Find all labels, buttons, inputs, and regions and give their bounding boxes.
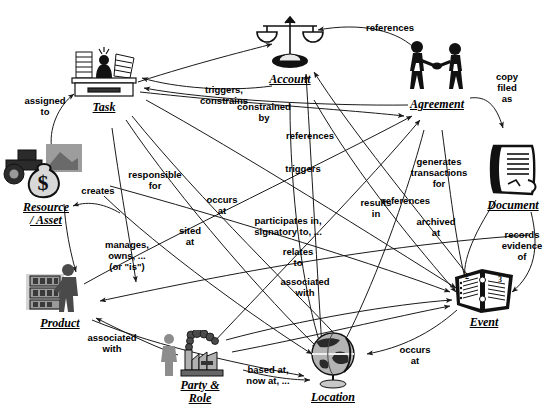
node-product[interactable]: Product: [24, 262, 96, 330]
edge-label-constrained-by: constrained by: [237, 101, 291, 123]
node-label-party-role: Party & Role: [155, 379, 245, 405]
balance-scales-icon: [253, 14, 327, 72]
handshake-figures-icon: [400, 37, 474, 97]
node-task[interactable]: Task: [66, 46, 142, 114]
edge-label-associated-with-2: associated with: [87, 332, 136, 354]
edge-label-references-bottom: references: [382, 195, 430, 206]
node-label-task: Task: [66, 101, 142, 114]
node-label-agreement: Agreement: [400, 98, 474, 111]
edge-label-responsible-for: responsible for: [128, 169, 181, 191]
node-label-account: Account: [253, 73, 327, 86]
node-document[interactable]: Document: [482, 142, 544, 212]
edge-label-generates-transactions-for: generates transactions for: [411, 156, 468, 189]
edge-label-participates-in: participates in, signatory to, ...: [254, 215, 322, 237]
node-label-document: Document: [482, 199, 544, 212]
diagram-canvas: Task Account: [0, 0, 560, 413]
open-ledger-book-icon: 2 3: [451, 265, 517, 315]
node-resource-asset[interactable]: $ Resource / Asset: [0, 142, 92, 227]
node-party-role[interactable]: Party & Role: [155, 330, 245, 405]
person-factory-icon: [155, 330, 245, 378]
edge-label-assigned-to: assigned to: [24, 95, 65, 117]
node-location[interactable]: Location: [302, 330, 364, 404]
globe-stand-icon: [302, 330, 364, 390]
svg-text:$: $: [38, 170, 49, 195]
edge-label-relates-to: relates to: [283, 246, 314, 268]
edge-label-creates: creates: [81, 185, 114, 196]
edge-label-occurs-at-1: occurs at: [206, 194, 237, 216]
svg-text:3: 3: [498, 275, 502, 284]
edge-label-sited-at: sited at: [179, 225, 201, 247]
person-shelf-display-icon: [24, 262, 96, 316]
svg-text:2: 2: [465, 272, 469, 281]
node-label-location: Location: [302, 391, 364, 404]
node-label-event: Event: [451, 316, 517, 329]
edge-label-based-at-now-at: based at, now at, ...: [246, 364, 289, 386]
desk-paperwork-icon: [66, 46, 142, 100]
document-sheet-icon: [482, 142, 544, 198]
edge-label-triggers: triggers: [285, 163, 320, 174]
edge-label-references-account: references: [366, 22, 414, 33]
node-event[interactable]: 2 3 Event: [451, 265, 517, 329]
edge-label-manages-owns-is: manages, owns, ... (or "is"): [105, 239, 149, 272]
node-agreement[interactable]: Agreement: [400, 37, 474, 111]
edge-label-copy-filed-as: copy filed as: [496, 71, 518, 104]
edge-label-occurs-at-2: occurs at: [399, 344, 430, 366]
node-label-product: Product: [24, 317, 96, 330]
node-label-resource-asset: Resource / Asset: [0, 201, 92, 227]
tractor-moneybag-icon: $: [0, 142, 92, 200]
edge-label-records-evidence-of: records evidence of: [502, 229, 543, 262]
edge-label-associated-with-1: associated with: [280, 276, 329, 298]
edge-label-references-mid: references: [286, 130, 334, 141]
edge-label-archived-at: archived at: [416, 216, 455, 238]
node-account[interactable]: Account: [253, 14, 327, 86]
